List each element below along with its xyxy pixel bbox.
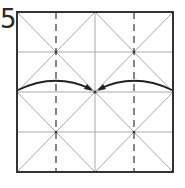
origami-diagram xyxy=(0,0,185,188)
left-fold-arrow xyxy=(18,81,91,90)
right-fold-arrow xyxy=(99,81,172,90)
